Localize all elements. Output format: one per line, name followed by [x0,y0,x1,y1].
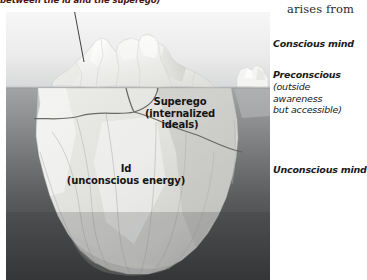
water-vignette [6,212,270,280]
arises-from-note: arises from [287,2,354,16]
side-label-unconscious-mind-head: Unconscious mind [273,164,367,176]
side-label-preconscious-sub-1: (outside [273,81,342,93]
scene-layers [6,12,270,280]
side-label-preconscious-sub-2: awareness [273,93,342,105]
side-label-conscious-mind-head: Conscious mind [273,38,354,50]
top-caption-text: between the id and the superego) [0,0,230,6]
iceberg-scene [6,12,270,280]
top-caption-cropped: between the id and the superego) [0,0,230,7]
side-label-conscious-mind: Conscious mind [273,38,354,50]
waterline [6,86,270,88]
iceberg-illustration [6,12,270,280]
side-label-preconscious-head: Preconscious [273,69,342,81]
side-label-preconscious-sub-3: but accessible) [273,104,342,116]
side-label-unconscious-mind: Unconscious mind [273,164,367,176]
side-label-preconscious: Preconscious (outside awareness but acce… [273,69,342,116]
